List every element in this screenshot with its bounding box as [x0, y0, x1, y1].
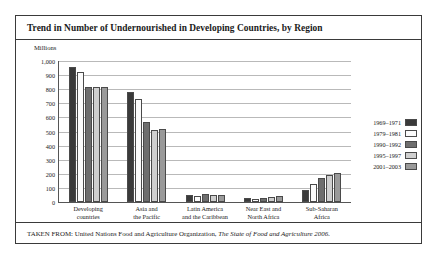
legend-item: 1979–1981 — [355, 128, 417, 139]
y-axis-tick-label: 900 — [46, 72, 55, 79]
y-axis-tick-label: 400 — [46, 142, 55, 149]
bar — [202, 194, 209, 202]
legend-swatch — [405, 163, 417, 170]
plot-area — [58, 61, 351, 203]
bar-group — [293, 61, 351, 202]
bars-layer — [59, 61, 351, 202]
bar — [244, 198, 251, 202]
bar — [194, 196, 201, 202]
y-axis-tick-label: 200 — [46, 170, 55, 177]
x-axis-category-label: Latin Americaand the Caribbean — [176, 205, 234, 221]
x-axis-category-label: Asia andthe Pacific — [117, 205, 175, 221]
bar — [186, 195, 193, 202]
title-divider — [16, 39, 421, 40]
bar — [143, 122, 150, 202]
bar — [135, 99, 142, 202]
legend-label: 1979–1981 — [373, 130, 401, 137]
x-axis-category-label: Sub-SaharanAfrica — [293, 205, 351, 221]
bar-group — [176, 61, 234, 202]
figure-frame: Trend in Number of Undernourished in Dev… — [15, 15, 422, 244]
bar — [151, 130, 158, 202]
bar — [159, 129, 166, 202]
x-axis-category-label: Near East andNorth Africa — [234, 205, 292, 221]
legend-label: 1969–1971 — [373, 119, 401, 126]
legend-swatch — [405, 130, 417, 137]
legend-item: 1995–1997 — [355, 150, 417, 161]
legend-swatch — [405, 152, 417, 159]
legend-item: 1969–1971 — [355, 117, 417, 128]
bar — [101, 87, 108, 202]
bar — [210, 195, 217, 202]
bar — [218, 195, 225, 202]
legend-item: 2001–2003 — [355, 161, 417, 172]
legend-label: 1990–1992 — [373, 141, 401, 148]
source-divider — [16, 222, 421, 223]
y-axis-tick-label: 100 — [46, 184, 55, 191]
bar — [310, 184, 317, 202]
source-note: TAKEN FROM: United Nations Food and Agri… — [27, 230, 330, 237]
y-axis-tick-label: 800 — [46, 86, 55, 93]
y-axis-tick-labels: 1,0009008007006005004003002001000 — [27, 61, 55, 202]
bar — [276, 196, 283, 202]
legend: 1969–19711979–19811990–19921995–19972001… — [355, 117, 417, 172]
bar — [334, 173, 341, 202]
legend-swatch — [405, 141, 417, 148]
bar — [127, 92, 134, 202]
bar — [318, 178, 325, 202]
bar — [268, 197, 275, 202]
bar — [77, 72, 84, 202]
source-prefix: TAKEN FROM: United Nations Food and Agri… — [27, 230, 218, 237]
y-axis-tick-label: 1,000 — [41, 58, 55, 65]
y-axis-tick-label: 700 — [46, 100, 55, 107]
legend-label: 1995–1997 — [373, 152, 401, 159]
legend-item: 1990–1992 — [355, 139, 417, 150]
bar — [93, 87, 100, 202]
y-axis-tick-label: 600 — [46, 114, 55, 121]
bar — [85, 87, 92, 202]
bar — [260, 198, 267, 202]
chart-title: Trend in Number of Undernourished in Dev… — [27, 23, 323, 33]
y-axis-tick-label: 300 — [46, 156, 55, 163]
y-axis-unit-label: Millions — [34, 44, 56, 51]
legend-swatch — [405, 119, 417, 126]
bar-group — [234, 61, 292, 202]
bar — [326, 175, 333, 202]
bar-group — [59, 61, 117, 202]
x-axis-category-labels: DevelopingcountriesAsia andthe PacificLa… — [59, 205, 351, 221]
bar — [69, 67, 76, 202]
bar-group — [117, 61, 175, 202]
legend-label: 2001–2003 — [373, 163, 401, 170]
y-axis-tick-label: 500 — [46, 128, 55, 135]
bar — [302, 190, 309, 202]
x-axis-category-label: Developingcountries — [59, 205, 117, 221]
y-axis-tick-label: 0 — [52, 199, 55, 206]
bar — [252, 199, 259, 202]
source-title: The State of Food and Agriculture 2006. — [218, 230, 330, 237]
